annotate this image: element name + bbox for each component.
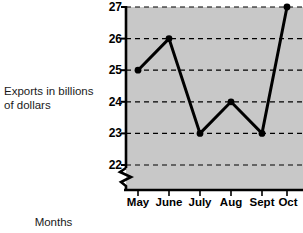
- x-tick-label-sept: Sept: [250, 196, 275, 208]
- plot-area-background: [126, 7, 303, 190]
- x-tick-label-may: May: [127, 196, 149, 208]
- x-tick-label-aug: Aug: [220, 196, 242, 208]
- x-tick-label-june: June: [156, 196, 183, 208]
- data-point-may: [135, 67, 142, 74]
- data-point-june: [166, 35, 173, 42]
- x-axis-caption-wrap: Months: [0, 216, 303, 228]
- x-axis-tick-labels: May June July Aug Sept Oct: [0, 196, 303, 212]
- x-tick-label-oct: Oct: [278, 196, 297, 208]
- x-tick-label-july: July: [188, 196, 211, 208]
- data-point-july: [197, 130, 204, 137]
- data-point-aug: [228, 98, 235, 105]
- data-point-sept: [259, 130, 266, 137]
- line-chart-figure: Exports in billions of dollars 27 26 25 …: [0, 0, 303, 233]
- x-axis-caption: Months: [35, 216, 73, 228]
- data-point-oct: [284, 4, 291, 11]
